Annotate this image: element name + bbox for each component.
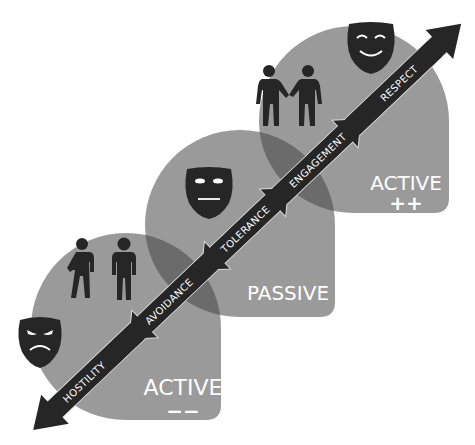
zone-label-passive: PASSIVE: [247, 281, 329, 305]
minus-minus-sign: −−: [166, 399, 200, 423]
svg-text:ACTIVE: ACTIVE: [144, 375, 223, 400]
attitude-spectrum-diagram: ACTIVE −− PASSIVE ACTIVE ++: [0, 0, 475, 445]
plus-plus-sign: ++: [389, 191, 423, 215]
attitude-spectrum-arrow: HOSTILITY AVOIDANCE TOLERANCE ENGAGEMENT…: [19, 9, 475, 444]
